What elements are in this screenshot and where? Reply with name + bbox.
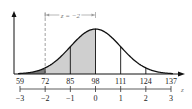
x-tick-label: 59 bbox=[16, 77, 24, 86]
z-tick-labels: −3−2−10123 bbox=[16, 94, 173, 103]
x-tick-label: 85 bbox=[66, 77, 74, 86]
z-tick-label: 2 bbox=[144, 94, 148, 103]
shaded-areas bbox=[20, 29, 96, 74]
x-tick-label: 98 bbox=[92, 77, 100, 86]
z-axis-label: z bbox=[180, 86, 184, 94]
z-tick-label: −3 bbox=[16, 94, 25, 103]
z-tick-label: −2 bbox=[41, 94, 50, 103]
x-tick-label: 137 bbox=[165, 77, 177, 86]
arrow-right-icon bbox=[92, 14, 95, 17]
x-axis-arrow-icon bbox=[178, 72, 185, 77]
x-tick-label: 72 bbox=[41, 77, 49, 86]
z-tick-label: 1 bbox=[119, 94, 123, 103]
x-tick-labels: 59728598111124137 bbox=[16, 77, 177, 86]
y-axis-arrow-icon bbox=[12, 11, 17, 17]
normal-distribution-chart: z = −2 59728598111124137 −3−2−10123 z bbox=[0, 0, 192, 109]
z-tick-label: 3 bbox=[169, 94, 173, 103]
x-tick-label: 111 bbox=[115, 77, 126, 86]
z-annotation-label: z = −2 bbox=[60, 12, 81, 20]
z-tick-label: −1 bbox=[66, 94, 75, 103]
arrow-left-icon bbox=[46, 14, 49, 17]
x-tick-label: 124 bbox=[140, 77, 152, 86]
z-tick-label: 0 bbox=[94, 94, 98, 103]
